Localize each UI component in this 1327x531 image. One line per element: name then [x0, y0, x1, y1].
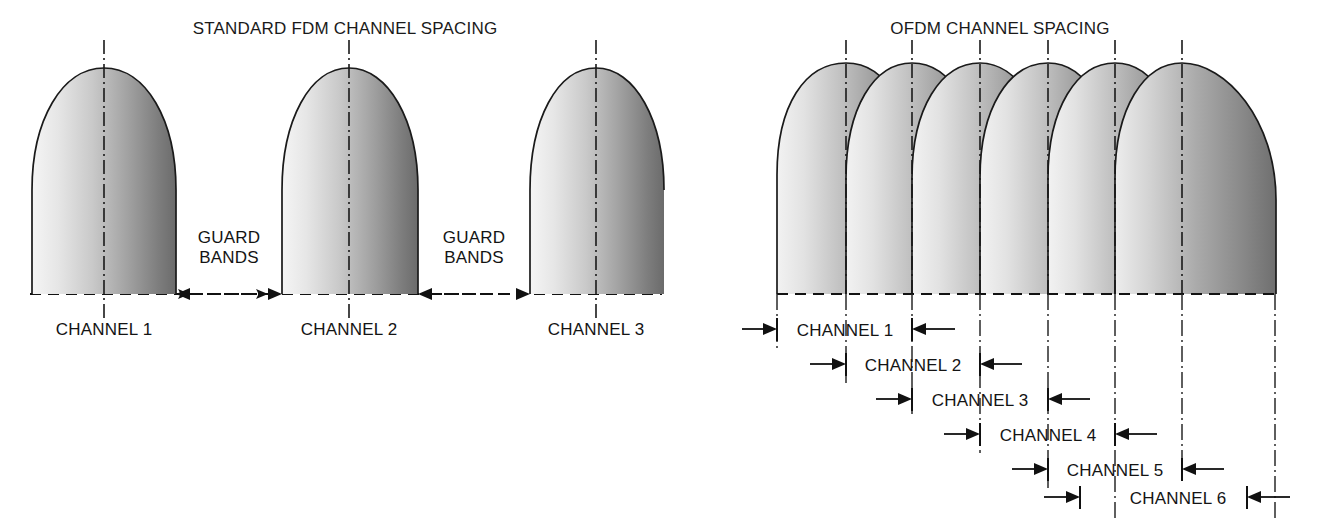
fdm-ofdm-comparison-figure: STANDARD FDM CHANNEL SPACING: [0, 0, 1327, 531]
diagram-canvas: STANDARD FDM CHANNEL SPACING: [0, 0, 1327, 531]
fdm-channel-3-caption: CHANNEL 3: [548, 320, 645, 339]
fdm-channel-1-lobe: [32, 40, 176, 318]
guard-band-1-arrowhead-right: [268, 288, 282, 300]
fdm-channel-2-lobe: [282, 40, 418, 318]
ofdm-channel-6-caption: CHANNEL 6: [1130, 489, 1227, 508]
ofdm-row-3-arrowhead-left: [1048, 393, 1062, 405]
guard-band-1-label-line2: BANDS: [199, 248, 259, 267]
ofdm-panel-title: OFDM CHANNEL SPACING: [890, 19, 1109, 38]
ofdm-row-1-arrowhead-left: [912, 323, 926, 335]
ofdm-measure-row-1: CHANNEL 1: [742, 318, 955, 341]
ofdm-row-1-arrowhead-right: [763, 323, 777, 335]
ofdm-row-5-arrowhead-right: [1034, 463, 1048, 475]
fdm-panel-title: STANDARD FDM CHANNEL SPACING: [193, 19, 498, 38]
guard-band-2-arrowhead-right: [516, 288, 530, 300]
ofdm-row-2-arrowhead-left: [980, 358, 994, 370]
ofdm-channel-2-caption: CHANNEL 2: [865, 356, 962, 375]
guard-band-1-label-line1: GUARD: [198, 228, 260, 247]
ofdm-row-6-arrowhead-right: [1066, 491, 1080, 503]
ofdm-lobe-6: [1115, 63, 1276, 294]
guard-band-2-arrowhead-left: [418, 288, 432, 300]
ofdm-row-4-arrowhead-right: [966, 428, 980, 440]
fdm-panel: STANDARD FDM CHANNEL SPACING: [30, 19, 664, 339]
guard-band-2-label-line1: GUARD: [443, 228, 505, 247]
fdm-channel-3-lobe: [530, 40, 664, 318]
ofdm-measure-row-5: CHANNEL 5: [1012, 458, 1224, 481]
ofdm-measure-row-4: CHANNEL 4: [944, 423, 1157, 446]
ofdm-channel-5-caption: CHANNEL 5: [1067, 461, 1164, 480]
ofdm-lobe-6-fill: [1115, 63, 1276, 294]
ofdm-measure-row-6: CHANNEL 6: [1044, 486, 1290, 509]
ofdm-measure-row-2: CHANNEL 2: [810, 353, 1022, 376]
ofdm-panel: OFDM CHANNEL SPACING: [742, 19, 1290, 522]
guard-band-1: GUARD BANDS: [176, 228, 282, 300]
ofdm-row-2-arrowhead-right: [832, 358, 846, 370]
guard-band-1-arrowhead-left: [176, 288, 190, 300]
ofdm-row-3-arrowhead-right: [898, 393, 912, 405]
guard-band-2: GUARD BANDS: [418, 228, 530, 300]
guard-band-2-label-line2: BANDS: [444, 248, 504, 267]
ofdm-channel-3-caption: CHANNEL 3: [932, 391, 1029, 410]
ofdm-channel-4-caption: CHANNEL 4: [1000, 426, 1097, 445]
fdm-channel-2-caption: CHANNEL 2: [301, 320, 398, 339]
ofdm-row-5-arrowhead-left: [1182, 463, 1196, 475]
ofdm-measure-row-3: CHANNEL 3: [876, 388, 1090, 411]
ofdm-row-4-arrowhead-left: [1115, 428, 1129, 440]
ofdm-channel-1-caption: CHANNEL 1: [797, 321, 894, 340]
ofdm-row-6-arrowhead-left: [1247, 491, 1261, 503]
fdm-channel-1-caption: CHANNEL 1: [56, 320, 153, 339]
